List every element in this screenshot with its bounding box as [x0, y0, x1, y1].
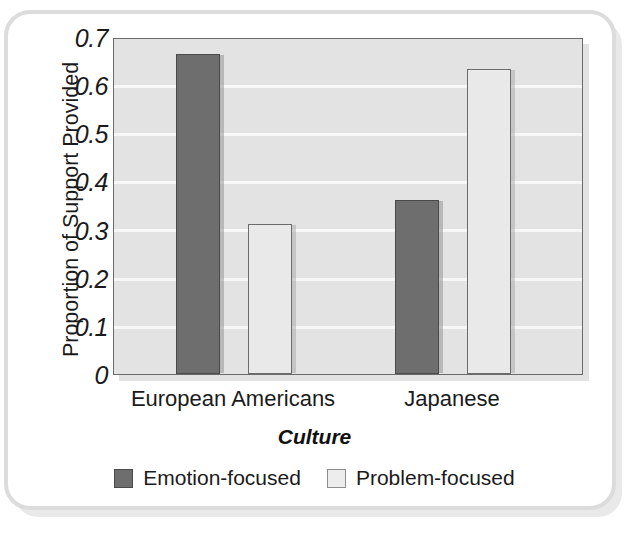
legend-label-emotion-focused: Emotion-focused: [143, 466, 301, 490]
y-tick-label: 0.3: [75, 217, 108, 246]
y-axis-ticks: 0.7 0.6 0.5 0.4 0.3 0.2 0.1 0: [30, 20, 108, 400]
y-tick-label: 0: [95, 361, 108, 390]
y-tick-label: 0.6: [75, 72, 108, 101]
bar-japanese-problem-focused: [467, 69, 511, 374]
x-category-label-european-americans: European Americans: [131, 386, 335, 412]
x-axis-title: Culture: [0, 425, 629, 449]
y-tick-label: 0.4: [75, 168, 108, 197]
legend-item-emotion-focused: Emotion-focused: [114, 466, 301, 490]
y-tick-label: 0.2: [75, 265, 108, 294]
bar-european-americans-problem-focused: [248, 224, 292, 374]
bar-chart: Proportion of Support Provided 0.7 0.6 0…: [0, 0, 629, 537]
bar-european-americans-emotion-focused: [176, 54, 220, 374]
plot-area: [113, 38, 583, 375]
y-tick-label: 0.5: [75, 120, 108, 149]
legend-item-problem-focused: Problem-focused: [327, 466, 515, 490]
legend-label-problem-focused: Problem-focused: [356, 466, 515, 490]
y-tick-label: 0.7: [75, 24, 108, 53]
chart-legend: Emotion-focused Problem-focused: [0, 466, 629, 490]
legend-swatch-dark-icon: [114, 469, 133, 488]
x-category-label-japanese: Japanese: [404, 386, 499, 412]
y-tick-label: 0.1: [75, 313, 108, 342]
bar-japanese-emotion-focused: [395, 200, 439, 374]
legend-swatch-light-icon: [327, 469, 346, 488]
